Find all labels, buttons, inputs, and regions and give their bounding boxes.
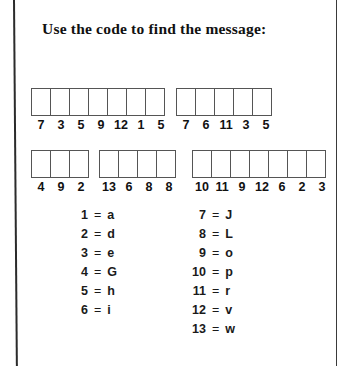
answer-box[interactable]	[31, 150, 51, 178]
code-number: 6	[272, 180, 292, 195]
answer-box[interactable]	[230, 150, 250, 178]
legend-equals-sign: =	[206, 208, 225, 222]
answer-box[interactable]	[126, 88, 146, 116]
answer-box-row	[176, 88, 276, 116]
answer-box[interactable]	[88, 88, 108, 116]
code-number: 4	[31, 180, 51, 195]
legend-key: 4	[68, 265, 88, 279]
legend-entry: 1=a	[68, 208, 117, 227]
answer-box[interactable]	[249, 150, 269, 178]
worksheet-page: Use the code to find the message: 735912…	[0, 0, 348, 366]
legend-entry: 4=G	[68, 265, 117, 284]
legend-entry: 2=d	[68, 227, 117, 246]
code-number: 12	[252, 180, 272, 195]
code-number: 6	[119, 180, 139, 195]
answer-box[interactable]	[50, 88, 70, 116]
legend-equals-sign: =	[88, 246, 107, 260]
answer-box[interactable]	[50, 150, 70, 178]
legend-entry: 9=o	[186, 246, 235, 265]
legend-entry: 6=i	[68, 303, 117, 322]
code-word-group: 492	[31, 150, 91, 195]
legend-value: r	[225, 284, 230, 298]
answer-box[interactable]	[137, 150, 157, 178]
answer-box[interactable]	[107, 88, 127, 116]
legend-equals-sign: =	[88, 284, 107, 298]
answer-box-row	[31, 150, 91, 178]
legend-key: 2	[68, 227, 88, 241]
code-number-row: 1011912623	[192, 180, 332, 195]
legend-entry: 10=p	[186, 265, 235, 284]
answer-box[interactable]	[69, 150, 89, 178]
legend-key: 12	[186, 303, 206, 317]
code-number: 5	[151, 118, 171, 133]
answer-box[interactable]	[31, 88, 51, 116]
code-number: 8	[139, 180, 159, 195]
code-number: 5	[256, 118, 276, 133]
legend-entry: 11=r	[186, 284, 235, 303]
legend-value: G	[107, 265, 117, 279]
code-word-group: 761135	[176, 88, 276, 133]
legend-key: 7	[186, 208, 206, 222]
answer-box[interactable]	[268, 150, 288, 178]
legend-key: 13	[186, 322, 206, 336]
legend-key: 3	[68, 246, 88, 260]
legend-key: 11	[186, 284, 206, 298]
answer-box[interactable]	[233, 88, 253, 116]
legend-entry: 3=e	[68, 246, 117, 265]
answer-box[interactable]	[69, 88, 89, 116]
code-number-row: 73591215	[31, 118, 171, 133]
code-number: 10	[192, 180, 212, 195]
answer-box[interactable]	[145, 88, 165, 116]
answer-box[interactable]	[118, 150, 138, 178]
legend-value: e	[107, 246, 114, 260]
code-number-row: 761135	[176, 118, 276, 133]
code-number-row: 492	[31, 180, 91, 195]
code-number: 3	[312, 180, 332, 195]
answer-box[interactable]	[306, 150, 326, 178]
code-number: 5	[71, 118, 91, 133]
legend-value: a	[107, 208, 114, 222]
page-edge-rule-left	[13, 0, 18, 366]
code-word-group: 73591215	[31, 88, 171, 133]
code-number: 7	[176, 118, 196, 133]
legend-key: 1	[68, 208, 88, 222]
legend-key: 5	[68, 284, 88, 298]
code-number: 9	[232, 180, 252, 195]
code-number: 13	[99, 180, 119, 195]
legend-value: h	[107, 284, 115, 298]
legend-value: p	[225, 265, 233, 279]
answer-box[interactable]	[99, 150, 119, 178]
legend-value: J	[225, 208, 232, 222]
answer-box-row	[31, 88, 171, 116]
code-word-group: 1011912623	[192, 150, 332, 195]
legend-entry: 5=h	[68, 284, 117, 303]
answer-box-row	[192, 150, 332, 178]
legend-value: d	[107, 227, 115, 241]
code-word-group: 13688	[99, 150, 179, 195]
answer-box[interactable]	[211, 150, 231, 178]
legend-value: L	[225, 227, 233, 241]
page-edge-rule-right	[336, 0, 337, 366]
legend-value: i	[107, 303, 110, 317]
answer-box[interactable]	[156, 150, 176, 178]
code-number: 3	[236, 118, 256, 133]
code-number: 11	[212, 180, 232, 195]
legend-equals-sign: =	[88, 208, 107, 222]
answer-box[interactable]	[195, 88, 215, 116]
answer-box[interactable]	[214, 88, 234, 116]
legend-equals-sign: =	[206, 284, 225, 298]
answer-box[interactable]	[192, 150, 212, 178]
legend-equals-sign: =	[88, 303, 107, 317]
code-number-row: 13688	[99, 180, 179, 195]
legend-entry: 7=J	[186, 208, 235, 227]
legend-value: v	[225, 303, 232, 317]
answer-box[interactable]	[287, 150, 307, 178]
legend-equals-sign: =	[206, 227, 225, 241]
answer-box-row	[99, 150, 179, 178]
code-number: 11	[216, 118, 236, 133]
answer-box[interactable]	[176, 88, 196, 116]
legend-entry: 8=L	[186, 227, 235, 246]
code-number: 12	[111, 118, 131, 133]
answer-box[interactable]	[252, 88, 272, 116]
legend-column-right: 7=J8=L9=o10=p11=r12=v13=w	[186, 208, 235, 341]
